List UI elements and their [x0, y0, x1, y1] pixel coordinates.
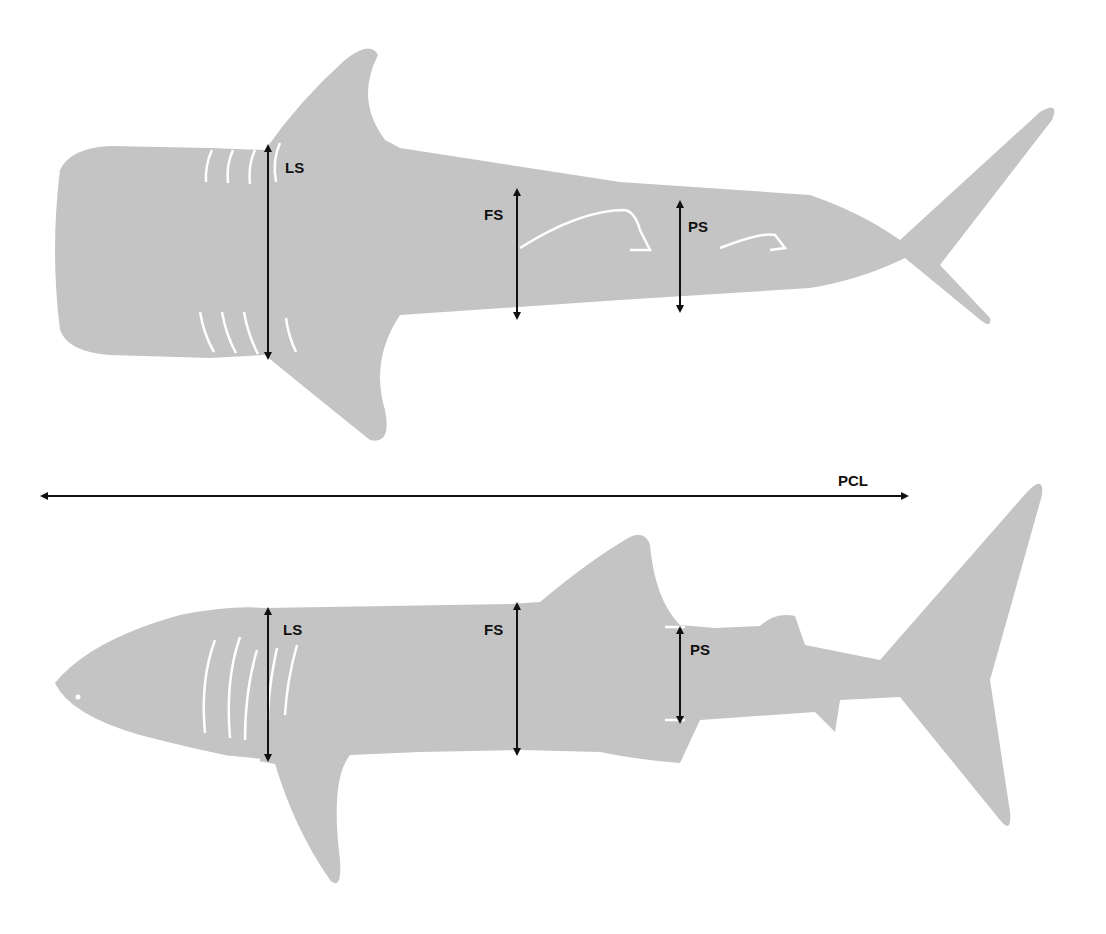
lateral-view-shark: [55, 484, 1042, 884]
ls-label-top: LS: [285, 160, 304, 175]
pcl-label: PCL: [838, 473, 868, 488]
ps-label-top: PS: [688, 219, 708, 234]
ls-label-side: LS: [283, 622, 302, 637]
fs-label-top: FS: [484, 207, 503, 222]
dorsal-view-shark: [55, 49, 1054, 441]
fs-label-side: FS: [484, 622, 503, 637]
shark-diagram: [0, 0, 1106, 934]
ps-label-side: PS: [690, 642, 710, 657]
